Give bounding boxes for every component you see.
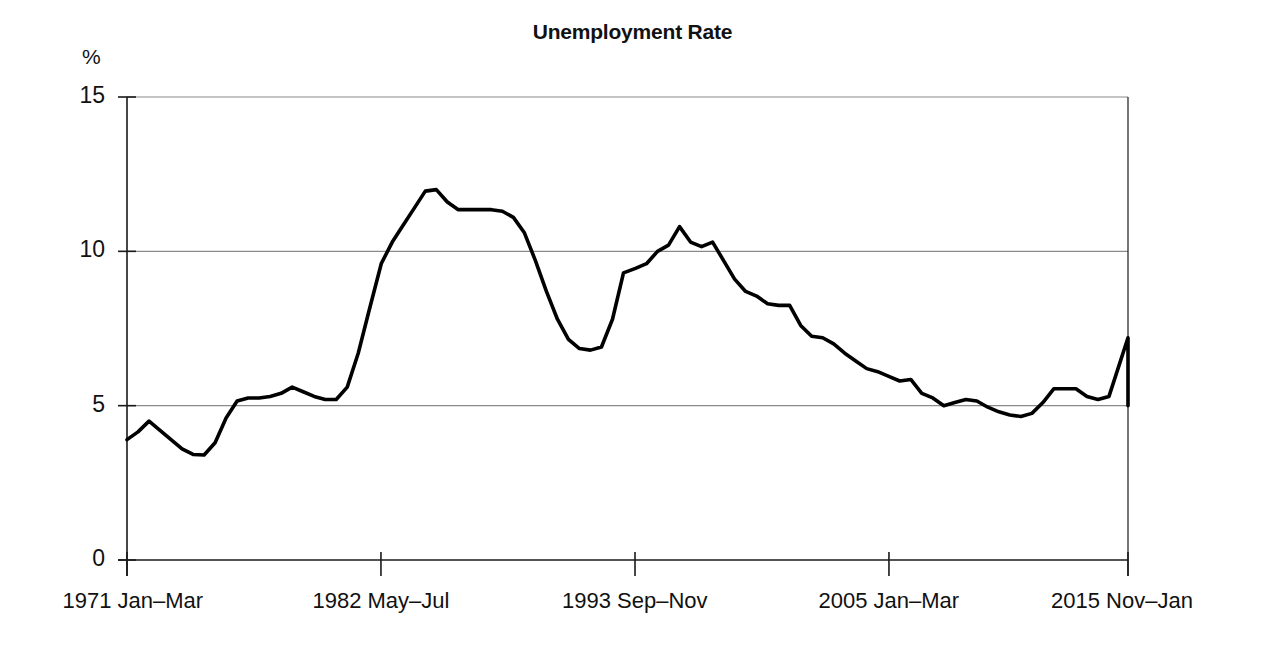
chart-figure: Unemployment Rate % 051015 1971 Jan–Mar1… <box>0 0 1265 660</box>
y-tick-label: 10 <box>25 238 105 261</box>
x-tick-label: 2015 Nov–Jan <box>1051 590 1193 612</box>
chart-plot-area <box>0 0 1265 660</box>
y-tick-label: 15 <box>25 84 105 107</box>
x-tick-marks-group <box>127 552 1128 576</box>
x-tick-label: 1982 May–Jul <box>312 590 449 612</box>
x-tick-label: 2005 Jan–Mar <box>818 590 959 612</box>
gridlines-group <box>127 97 1128 406</box>
x-tick-label: 1971 Jan–Mar <box>63 590 204 612</box>
x-tick-label: 1993 Sep–Nov <box>562 590 708 612</box>
y-tick-label: 0 <box>25 547 105 570</box>
y-tick-label: 5 <box>25 393 105 416</box>
axes-group <box>118 97 1128 576</box>
data-line-unemployment-rate <box>127 190 1128 455</box>
